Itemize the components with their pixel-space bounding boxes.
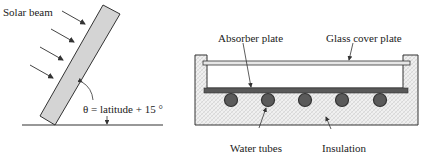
- glass-cover-plate-label: Glass cover plate: [326, 33, 402, 44]
- angle-label: θ = latitude + 15 °: [83, 104, 163, 115]
- solar-beam-label: Solar beam: [3, 7, 53, 18]
- absorber-plate-label: Absorber plate: [218, 33, 283, 44]
- tilt-angle-arc: [82, 82, 93, 100]
- glass-cover-leader: [349, 43, 353, 60]
- glass-cover-plate: [203, 61, 410, 65]
- water-tubes-label: Water tubes: [230, 143, 282, 154]
- diagram-canvas: [0, 0, 422, 156]
- collector-cross-section: [195, 43, 418, 129]
- insulation-label: Insulation: [322, 143, 366, 154]
- absorber-plate: [204, 88, 408, 93]
